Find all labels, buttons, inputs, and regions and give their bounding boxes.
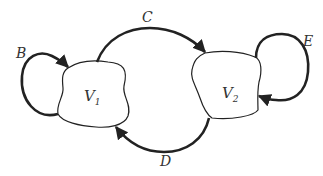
edge-d-label: D: [159, 153, 171, 169]
edge-d: [116, 118, 209, 152]
edge-e-label: E: [302, 33, 313, 49]
edge-e: [256, 34, 308, 100]
diagram-svg: V1 V2 B C D E: [0, 0, 323, 176]
edge-c: [97, 28, 205, 62]
state-diagram: V1 V2 B C D E: [0, 0, 323, 176]
edge-c-label: C: [142, 9, 153, 25]
edge-b-label: B: [15, 45, 26, 61]
